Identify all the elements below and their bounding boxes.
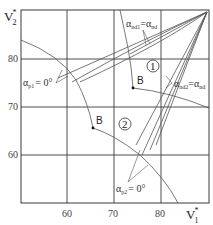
- operating-region-diagram: B B 1 2 αnd1=αnd αp1= 0° αnd2=αnd αp2= 0…: [0, 0, 213, 225]
- annotation-alpha-p1: αp1= 0°: [23, 77, 52, 89]
- x-axis-label: V*1: [186, 206, 198, 225]
- x-tick-60: 60: [62, 208, 72, 219]
- annotation-alpha-nd1: αnd1=αnd: [126, 18, 157, 30]
- region-1-label: 1: [150, 60, 156, 72]
- plot-frame: [21, 10, 209, 203]
- y-tick-60: 60: [8, 149, 18, 160]
- point-b-upper-label: B: [137, 75, 144, 86]
- curves: [21, 10, 209, 203]
- x-tick-70: 70: [108, 208, 118, 219]
- y-tick-70: 70: [8, 101, 18, 112]
- y-axis-label: V*2: [4, 8, 16, 27]
- point-b-lower: [92, 127, 95, 130]
- fan-line-1: [58, 12, 207, 78]
- grid: [21, 10, 209, 203]
- annotation-alpha-nd2: αnd2=αnd: [174, 78, 205, 90]
- x-tick-80: 80: [155, 208, 165, 219]
- region-2-label: 2: [122, 118, 128, 130]
- annotation-alpha-p2: αp2= 0°: [116, 183, 145, 195]
- y-tick-80: 80: [8, 53, 18, 64]
- point-b-upper: [132, 87, 135, 90]
- point-b-lower-label: B: [96, 115, 103, 126]
- fan-line-8: [156, 12, 207, 145]
